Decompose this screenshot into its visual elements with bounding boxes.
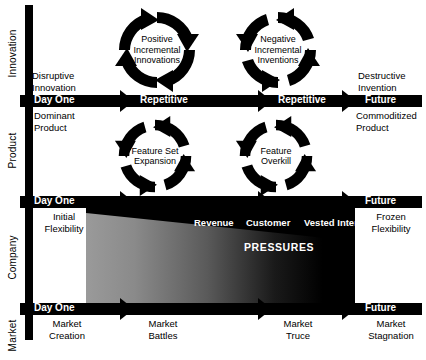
cycle-positive-incremental-innovations: Positive Incremental Innovations bbox=[113, 6, 201, 94]
axis-label-innovation: Innovation bbox=[7, 14, 18, 94]
cell-initial-flexibility: Initial Flexibility bbox=[34, 211, 94, 234]
axis-label-product: Product bbox=[7, 111, 18, 191]
cycle-negative-incremental-inventions: Negative Incremental Inventions bbox=[234, 6, 322, 94]
cycle-ring-icon bbox=[234, 6, 322, 94]
pressures-block: Revenue Customer Vested Interests PRESSU… bbox=[86, 205, 355, 303]
timeline-bar-innovation: Day One Repetitive Repetitive Future bbox=[20, 95, 422, 107]
cell-market-truce: Market Truce bbox=[265, 318, 331, 341]
pressure-word-revenue: Revenue bbox=[194, 217, 234, 228]
cell-frozen-flexibility: Frozen Flexibility bbox=[358, 211, 424, 234]
cell-dominant-product: Dominant Product bbox=[34, 110, 114, 133]
bar-label-future: Future bbox=[365, 302, 396, 314]
cell-market-stagnation: Market Stagnation bbox=[356, 318, 426, 341]
cell-market-creation: Market Creation bbox=[34, 318, 100, 341]
pressure-word-customer: Customer bbox=[246, 217, 290, 228]
arrowhead-icon bbox=[120, 298, 134, 320]
cycle-feature-overkill: Feature Overkill bbox=[234, 114, 318, 198]
axis-label-market: Market bbox=[7, 296, 18, 360]
arrowhead-icon bbox=[342, 298, 356, 320]
bar-label-repetitive-2: Repetitive bbox=[278, 94, 326, 106]
bar-label-day-one: Day One bbox=[34, 302, 75, 314]
bar-label-day-one: Day One bbox=[34, 94, 75, 106]
pressure-title: PRESSURES bbox=[244, 241, 314, 253]
arrowhead-icon bbox=[258, 90, 272, 112]
vertical-axis-spine bbox=[25, 5, 33, 340]
cycle-ring-icon bbox=[113, 6, 201, 94]
cell-market-battles: Market Battles bbox=[130, 318, 196, 341]
axis-label-company: Company bbox=[7, 218, 18, 298]
bar-label-day-one: Day One bbox=[34, 195, 75, 207]
cycle-ring-icon bbox=[113, 114, 197, 198]
arrowhead-icon bbox=[342, 90, 356, 112]
cycle-ring-icon bbox=[234, 114, 318, 198]
cycle-feature-set-expansion: Feature Set Expansion bbox=[113, 114, 197, 198]
arrowhead-icon bbox=[258, 298, 272, 320]
bar-label-future: Future bbox=[365, 195, 396, 207]
timeline-bar-company: Day One Future bbox=[20, 303, 422, 315]
lifecycle-diagram: Innovation Product Company Market Disrup… bbox=[0, 0, 426, 360]
cell-commoditized-product: Commoditized Product bbox=[356, 110, 426, 133]
cell-disruptive-innovation: Disruptive Innovation bbox=[32, 70, 112, 93]
bar-label-future: Future bbox=[365, 94, 396, 106]
cell-destructive-invention: Destructive Invention bbox=[358, 70, 426, 93]
arrowhead-icon bbox=[120, 90, 134, 112]
bar-label-repetitive-1: Repetitive bbox=[140, 94, 188, 106]
